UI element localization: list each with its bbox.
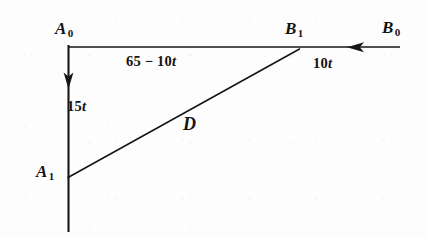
segment-label-right: 10t [313, 56, 332, 71]
segment-label-left-variable: t [82, 98, 86, 114]
point-label-a1-base: A [36, 162, 47, 181]
point-label-b0-subscript: 0 [395, 26, 401, 38]
point-label-b0: B0 [382, 19, 400, 36]
point-label-a1: A1 [36, 163, 54, 180]
point-label-a0-base: A [55, 19, 66, 38]
relative-motion-diagram: A0 A1 B1 B0 65 − 10t 15t 10t D [0, 0, 427, 238]
point-label-a0: A0 [55, 20, 73, 37]
segment-label-left-text: 15 [67, 98, 82, 114]
segment-label-top-text: 65 − 10 [126, 53, 172, 69]
segment-label-left: 15t [67, 99, 86, 114]
point-label-b1-subscript: 1 [298, 27, 304, 39]
segment-label-diagonal: D [183, 115, 196, 133]
point-label-a1-subscript: 1 [49, 170, 55, 182]
point-label-a0-subscript: 0 [68, 27, 74, 39]
point-label-b1-base: B [285, 19, 296, 38]
segment-label-top: 65 − 10t [126, 54, 176, 69]
point-label-b0-base: B [382, 18, 393, 37]
point-label-b1: B1 [285, 20, 303, 37]
segment-label-right-variable: t [328, 55, 332, 71]
segment-label-top-variable: t [172, 53, 176, 69]
segment-label-right-text: 10 [313, 55, 328, 71]
